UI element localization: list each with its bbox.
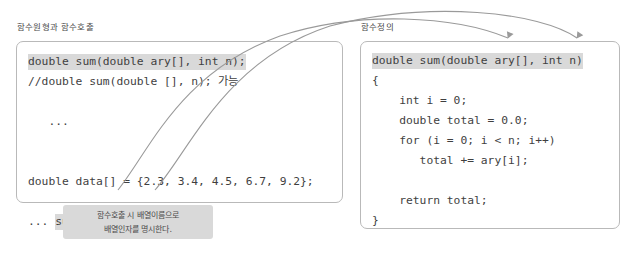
code-segment: double total = 0.0;	[372, 114, 528, 127]
code-line-proto-alt: //double sum(double [], n); 가능	[17, 72, 342, 92]
code-line-signature: double sum(double ary[], int n)	[361, 51, 619, 71]
code-line-blank1	[17, 92, 342, 112]
code-segment: {	[372, 74, 379, 87]
code-line-close-brace: }	[361, 211, 619, 231]
code-segment: int i = 0;	[372, 94, 467, 107]
code-line-blank3	[17, 152, 342, 172]
callout-note-line-1: 함수호출 시 배열이름으로	[63, 205, 213, 223]
code-segment: for (i = 0; i < n; i++)	[372, 134, 556, 147]
callout-note: 함수호출 시 배열이름으로 배열인자를 명시한다.	[63, 205, 213, 239]
code-line-return: return total;	[361, 191, 619, 211]
code-segment: total += ary[i];	[372, 154, 528, 167]
callout-note-line-2: 배열인자를 명시한다.	[63, 223, 213, 237]
left-panel-caption: 함수원형과 함수호출	[17, 20, 94, 32]
code-segment: ...	[28, 115, 69, 128]
code-line-decl-i: int i = 0;	[361, 91, 619, 111]
code-line-array-decl: double data[] = {2.3, 3.4, 4.5, 6.7, 9.2…	[17, 172, 342, 192]
right-code-block: double sum(double ary[], int n){ int i =…	[361, 51, 619, 231]
code-line-for-loop: for (i = 0; i < n; i++)	[361, 131, 619, 151]
code-line-accumulate: total += ary[i];	[361, 151, 619, 171]
code-segment: }	[372, 214, 379, 227]
code-segment: double data[] = {2.3, 3.4, 4.5, 6.7, 9.2…	[28, 175, 314, 188]
code-line-blank2	[17, 132, 342, 152]
code-segment: ...	[28, 215, 55, 228]
code-line-ellipsis-top: ...	[17, 112, 342, 132]
code-segment: double sum(double ary[], int n);	[28, 54, 246, 70]
code-line-proto: double sum(double ary[], int n);	[17, 52, 342, 72]
right-panel-caption: 함수정의	[361, 20, 394, 32]
code-line-open-brace: {	[361, 71, 619, 91]
code-segment: //double sum(double [], n); 가능	[28, 75, 238, 88]
function-prototype-panel: double sum(double ary[], int n);//double…	[16, 41, 343, 203]
function-definition-panel: double sum(double ary[], int n){ int i =…	[360, 41, 620, 229]
code-line-blank1	[361, 171, 619, 191]
code-segment: return total;	[372, 194, 488, 207]
code-line-decl-total: double total = 0.0;	[361, 111, 619, 131]
code-segment: double sum(double ary[], int n)	[372, 53, 583, 69]
